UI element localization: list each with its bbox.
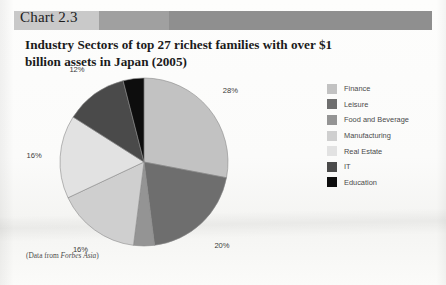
chart-number-label: Chart 2.3 — [20, 9, 78, 26]
legend-swatch — [327, 162, 337, 172]
legend-item: Education — [327, 175, 442, 191]
legend-swatch — [327, 177, 337, 187]
pie-slice-group — [60, 78, 228, 246]
source-note-suffix: ) — [96, 251, 98, 260]
legend-item: Finance — [327, 81, 442, 97]
source-note-publication: Forbes Asia — [60, 251, 96, 260]
legend-item: Real Estate — [327, 143, 442, 159]
legend-swatch — [327, 131, 337, 141]
legend-swatch — [327, 146, 337, 156]
legend-item: IT — [327, 159, 442, 175]
legend-item: Manufacturing — [327, 128, 442, 144]
legend-swatch — [327, 84, 337, 94]
legend-item: Food and Beverage — [327, 112, 442, 128]
pie-slice — [144, 78, 228, 178]
header-band-segment-2 — [99, 11, 169, 30]
legend-label: Finance — [344, 84, 370, 93]
legend-label: IT — [344, 162, 351, 171]
pie-slice-label: 28% — [223, 86, 238, 95]
chart-legend: FinanceLeisureFood and BeverageManufactu… — [327, 81, 442, 190]
pie-chart: 28%20%4%16%16%12%4% — [12, 62, 312, 262]
source-note: (Data from Forbes Asia) — [26, 251, 99, 260]
legend-swatch — [327, 115, 337, 125]
legend-swatch — [327, 99, 337, 109]
legend-label: Education — [344, 178, 377, 187]
pie-slice-label: 20% — [214, 241, 229, 250]
legend-label: Manufacturing — [344, 131, 391, 140]
legend-label: Food and Beverage — [344, 115, 409, 124]
legend-item: Leisure — [327, 97, 442, 113]
pie-slice-label: 4% — [139, 262, 150, 263]
legend-label: Real Estate — [344, 147, 382, 156]
pie-chart-svg: 28%20%4%16%16%12%4% — [12, 62, 312, 262]
source-note-prefix: (Data from — [26, 251, 60, 260]
legend-label: Leisure — [344, 100, 368, 109]
pie-slice-label: 16% — [27, 151, 42, 160]
header-band-segment-3 — [169, 11, 432, 30]
pie-slice-label: 12% — [69, 65, 84, 74]
